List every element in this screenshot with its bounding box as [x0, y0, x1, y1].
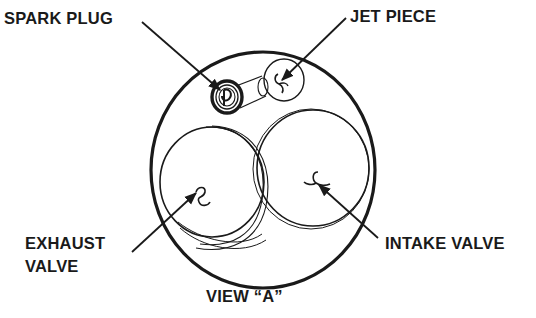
exhaust-valve-shape: [160, 126, 268, 249]
spark-plug-shape: [212, 76, 268, 113]
jet-piece-label: JET PIECE: [350, 6, 436, 27]
jet-piece-leader: [282, 18, 346, 80]
spark-plug-leader: [142, 22, 220, 90]
intake-valve-label: INTAKE VALVE: [385, 233, 505, 254]
exhaust-valve-label-line1: EXHAUST: [25, 233, 105, 254]
view-title: VIEW “A”: [206, 286, 283, 307]
diagram-drawing: [0, 0, 536, 318]
intake-valve-shape: [253, 109, 369, 229]
combustion-chamber-diagram: SPARK PLUG JET PIECE EXHAUST VALVE INTAK…: [0, 0, 536, 318]
exhaust-valve-label-line2: VALVE: [25, 256, 79, 277]
spark-plug-label: SPARK PLUG: [4, 8, 113, 29]
